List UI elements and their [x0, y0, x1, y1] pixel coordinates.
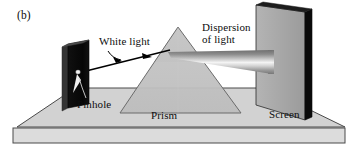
screen-label: Screen [269, 109, 300, 121]
dispersion-label-line2: of light [202, 34, 251, 46]
dispersion-label-line1: Dispersion [202, 21, 251, 33]
prism-label: Prism [151, 110, 177, 122]
panel-letter-label: (b) [17, 9, 31, 21]
pinhole-label: Pinhole [77, 99, 111, 111]
figure-canvas [0, 0, 357, 149]
base-front-face [13, 128, 345, 143]
pinhole-aperture [75, 70, 80, 74]
dispersion-of-light-label: Dispersionof light [202, 22, 251, 46]
ray-arrowhead [142, 53, 152, 59]
optics-dispersion-figure: (b) White light Dispersionof light Pinho… [0, 0, 357, 149]
plate-side-edge [62, 44, 68, 111]
white-light-label: White light [99, 36, 150, 48]
screen-right-edge [305, 9, 312, 120]
beam-spot-on-screen [268, 50, 274, 74]
